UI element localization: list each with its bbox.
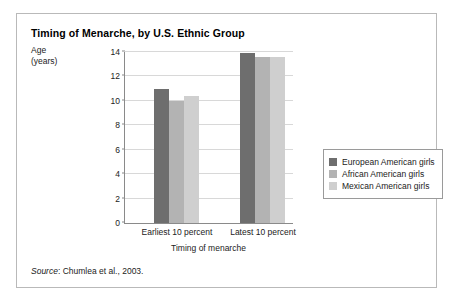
y-tick-label: 10 <box>111 96 120 106</box>
bar <box>169 101 184 223</box>
legend-item: African American girls <box>329 169 435 179</box>
bar <box>184 96 199 223</box>
legend-label: Mexican American girls <box>342 181 429 191</box>
bar <box>154 89 169 223</box>
y-tick-label: 0 <box>115 218 120 228</box>
bar <box>240 53 255 223</box>
y-tick-label: 12 <box>111 71 120 81</box>
y-tick-label: 14 <box>111 47 120 57</box>
figure-title: Timing of Menarche, by U.S. Ethnic Group <box>31 27 245 39</box>
legend-swatch-icon <box>329 158 337 166</box>
y-tick-label: 4 <box>115 169 120 179</box>
bar-group <box>154 52 200 223</box>
x-tick-label: Latest 10 percent <box>230 227 296 237</box>
plot-area: 02468101214 Earliest 10 percentLatest 10… <box>124 52 293 224</box>
bar <box>255 57 270 223</box>
y-axis-title-line1: Age <box>31 45 57 56</box>
bar-group <box>240 52 286 223</box>
y-tick-label: 2 <box>115 194 120 204</box>
bars-layer <box>125 52 293 223</box>
source-citation: : Chumlea et al., 2003. <box>58 266 144 276</box>
legend-item: Mexican American girls <box>329 181 435 191</box>
y-tick-label: 8 <box>115 120 120 130</box>
source-label: Source <box>31 266 58 276</box>
source-note: Source: Chumlea et al., 2003. <box>31 266 143 276</box>
x-axis-title: Timing of menarche <box>124 243 293 253</box>
legend-item: European American girls <box>329 157 435 167</box>
legend-swatch-icon <box>329 170 337 178</box>
legend-label: African American girls <box>342 169 424 179</box>
y-axis-title-line2: (years) <box>31 56 57 67</box>
bar <box>270 57 285 223</box>
legend-label: European American girls <box>342 157 435 167</box>
legend: European American girlsAfrican American … <box>323 149 443 199</box>
y-axis-title: Age (years) <box>31 45 57 67</box>
x-tick-label: Earliest 10 percent <box>142 227 213 237</box>
y-tick-label: 6 <box>115 145 120 155</box>
legend-swatch-icon <box>329 182 337 190</box>
figure-frame: Timing of Menarche, by U.S. Ethnic Group… <box>16 13 437 288</box>
